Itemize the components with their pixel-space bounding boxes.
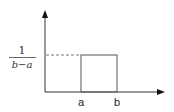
fraction-denominator: b−a (12, 59, 33, 70)
fraction-numerator: 1 (19, 44, 26, 57)
uniform-pdf-diagram: 1 b−a a b (0, 0, 174, 112)
x-label-b: b (114, 96, 120, 108)
density-box (81, 55, 117, 92)
x-label-a: a (78, 96, 85, 108)
